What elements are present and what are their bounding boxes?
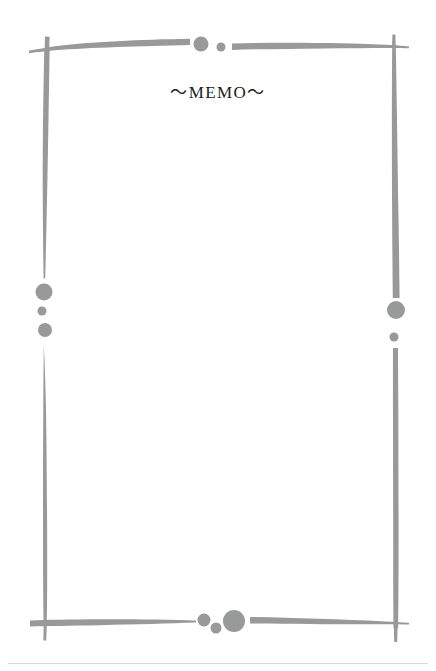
bottom-center-large-dot bbox=[223, 610, 245, 632]
bottom-left-corner-vertical-stub bbox=[43, 620, 47, 641]
memo-page: ～MEMO～ bbox=[0, 0, 436, 671]
top-center-large-dot bbox=[194, 37, 209, 52]
right-lower-vertical-stroke bbox=[393, 348, 399, 628]
left-middle-small-dot bbox=[38, 307, 47, 316]
memo-writing-area[interactable] bbox=[62, 120, 374, 590]
top-center-small-dot bbox=[217, 43, 226, 52]
top-right-corner-vertical-stub bbox=[392, 35, 396, 49]
bottom-center-medium-dot bbox=[198, 614, 211, 627]
top-left-corner-vertical-stub bbox=[45, 37, 50, 53]
page-title: ～MEMO～ bbox=[0, 82, 436, 104]
top-right-horizontal-stroke bbox=[232, 43, 409, 50]
right-middle-small-dot bbox=[390, 333, 399, 342]
left-middle-medium-dot bbox=[38, 323, 52, 337]
bottom-left-horizontal-stroke bbox=[30, 619, 196, 626]
left-middle-large-dot bbox=[36, 284, 53, 301]
bottom-right-horizontal-stroke bbox=[250, 617, 409, 624]
bottom-right-corner-vertical-stub bbox=[394, 620, 398, 642]
bottom-divider bbox=[8, 663, 428, 664]
right-middle-large-dot bbox=[387, 301, 405, 319]
top-left-horizontal-stroke bbox=[29, 39, 190, 53]
bottom-center-small-dot bbox=[211, 623, 222, 634]
left-lower-vertical-stroke bbox=[43, 346, 47, 624]
